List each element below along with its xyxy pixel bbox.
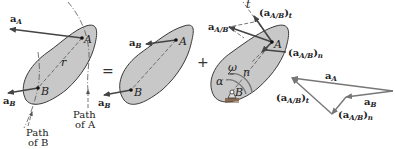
- parallelogram-construction: [229, 22, 254, 38]
- accel-b-label: aB: [3, 95, 15, 108]
- point-b-translation: [129, 88, 133, 92]
- tangential-accel-label: (aA/B)t: [259, 7, 293, 20]
- point-a-label-rotation: A: [273, 38, 282, 51]
- point-b-label-rotation: B: [234, 86, 243, 99]
- accel-b-label-translation: aB: [98, 97, 110, 110]
- accel-a-vector: [10, 29, 82, 38]
- polygon-a-a-label: aA: [325, 70, 337, 83]
- panel-full-motion: r aA aB A B Path of B Path of A: [3, 2, 97, 148]
- accel-a-label: aA: [10, 13, 22, 26]
- point-b: [36, 86, 40, 90]
- radius-label: r: [61, 56, 67, 69]
- point-b-label: B: [40, 85, 49, 98]
- point-a-translation: [174, 38, 178, 42]
- point-a-label-translation: A: [178, 35, 187, 48]
- relative-acceleration-diagram: r aA aB A B Path of B Path of A = aB aB …: [0, 0, 395, 149]
- normal-accel-label: (aA/B)n: [288, 47, 323, 60]
- polygon-normal-label: (aA/B)n: [338, 109, 373, 122]
- relative-accel-label: aA/B: [208, 21, 228, 34]
- alpha-label: α: [216, 75, 224, 88]
- path-b-label-line2: of B: [28, 137, 48, 148]
- polygon-a-a-vector: [292, 78, 393, 91]
- rigid-body-shape-rotation: [211, 25, 289, 102]
- polygon-a-b-label: aB: [364, 96, 376, 109]
- path-a-label-line2: of A: [75, 119, 96, 130]
- accel-b-label-at-a: aB: [129, 37, 141, 50]
- polygon-tangential-label: (aA/B)t: [276, 92, 310, 105]
- panel-rotation-about-b: t n aA/B (aA/B)t (aA/B)n ω α B A: [208, 0, 323, 102]
- plus-sign: +: [197, 54, 209, 70]
- point-b-label-translation: B: [133, 86, 142, 99]
- t-axis-label: t: [246, 0, 251, 11]
- vector-polygon: aA aB (aA/B)n (aA/B)t: [276, 70, 393, 122]
- equals-sign: =: [102, 63, 114, 79]
- omega-label: ω: [228, 61, 237, 74]
- point-a-label: A: [83, 33, 92, 46]
